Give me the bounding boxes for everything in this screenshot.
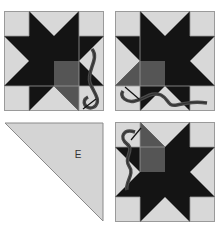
star-block-2 [115, 11, 215, 111]
center-highlight [54, 61, 79, 86]
star-block-4 [115, 122, 215, 222]
step-3-panel: E [4, 122, 104, 222]
step-4-panel [115, 122, 215, 222]
step-2-panel [115, 11, 215, 111]
center-highlight [140, 147, 165, 172]
step-1-panel [4, 11, 104, 111]
center-highlight [140, 61, 165, 86]
triangle-template: E [4, 122, 104, 222]
template-label: E [75, 149, 82, 160]
star-block-1 [4, 11, 104, 111]
